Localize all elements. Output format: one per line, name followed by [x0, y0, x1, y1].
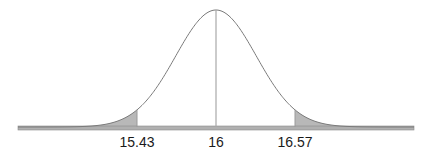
normal-distribution-chart: 15.43 16 16.57	[0, 0, 431, 153]
left-tail-shaded-region	[18, 110, 137, 127]
tick-label-lower: 15.43	[119, 134, 154, 150]
right-tail-shaded-region	[295, 110, 414, 127]
tick-label-upper: 16.57	[277, 134, 312, 150]
tick-label-mean: 16	[208, 134, 224, 150]
